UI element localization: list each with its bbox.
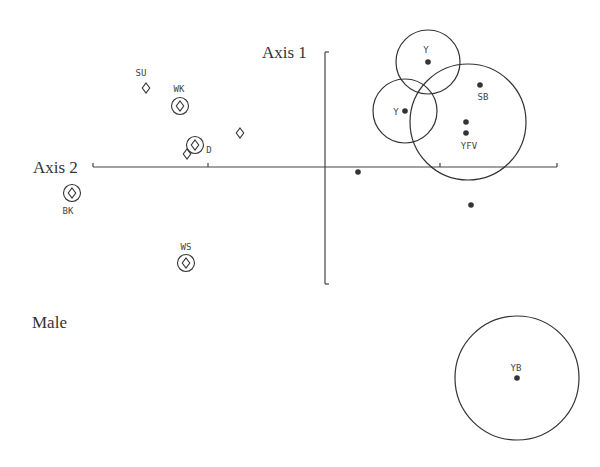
diamond-marker [182, 258, 190, 268]
diamond-marker [68, 188, 76, 198]
dot-marker [468, 202, 474, 208]
point-label: Y [393, 107, 399, 117]
dot-marker [402, 108, 408, 114]
dot-marker [463, 119, 469, 125]
point-label: YFV [461, 141, 478, 151]
point-labels: SUWKDBKWSYYSBYFVYB [63, 45, 522, 373]
diamond-marker [191, 140, 199, 150]
point-label: SB [478, 92, 489, 102]
diamond-marker [142, 83, 150, 93]
point-label: SU [136, 68, 147, 78]
diamond-marker [176, 101, 184, 111]
diamond-marker [183, 149, 191, 159]
axis-2-title: Axis 2 [33, 158, 78, 177]
dot-marker [463, 130, 469, 136]
ring-marker [178, 255, 195, 272]
ring-marker [172, 98, 189, 115]
dot-marker [355, 169, 361, 175]
point-label: D [206, 145, 211, 155]
confidence-circles [373, 30, 579, 440]
dot-marker [477, 82, 483, 88]
point-label: Y [423, 45, 429, 55]
dot-marker [425, 59, 431, 65]
dot-marker [514, 375, 520, 381]
diamond-marker [236, 128, 244, 138]
scatter-plot: Axis 1 Axis 2 SUWKDBKWSYYSBYFVYB [0, 0, 600, 467]
panel-caption: Male [32, 313, 67, 333]
axis-1-title: Axis 1 [262, 43, 307, 62]
point-label: WS [181, 242, 192, 252]
point-label: BK [63, 206, 74, 216]
point-label: YB [511, 363, 522, 373]
axes [93, 52, 557, 284]
ring-marker [64, 185, 81, 202]
point-label: WK [174, 84, 185, 94]
data-markers [64, 59, 520, 381]
